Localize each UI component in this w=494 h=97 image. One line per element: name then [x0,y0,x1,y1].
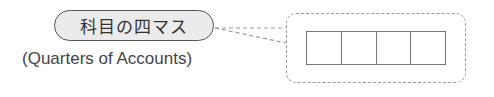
grid-cell-4 [411,32,445,64]
grid-cell-1 [307,32,342,64]
term-title: 科目の四マス [80,13,188,38]
grid-cell-2 [342,32,377,64]
term-subtitle: (Quarters of Accounts) [22,47,252,71]
term-pill: 科目の四マス [54,10,214,41]
four-cell-grid [306,31,446,65]
grid-cell-3 [377,32,412,64]
